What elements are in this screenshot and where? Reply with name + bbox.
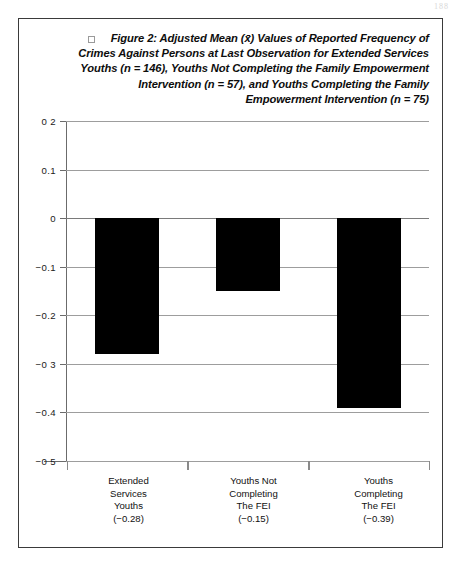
category-label-line: Extended xyxy=(66,475,191,488)
caption-line-1: Figure 2: Adjusted Mean (x̄) Values of R… xyxy=(111,32,429,44)
y-axis-tick-label: 0 xyxy=(50,213,56,224)
category-label-3: YouthsCompletingThe FEI(−0.39) xyxy=(316,475,441,525)
y-axis-tick xyxy=(60,267,66,268)
category-label-1: ExtendedServicesYouths(−0.28) xyxy=(66,475,191,525)
y-axis-tick xyxy=(60,315,66,316)
x-axis-tick xyxy=(188,461,189,470)
category-label-2: Youths NotCompletingThe FEI(−0.15) xyxy=(191,475,316,525)
y-axis-tick xyxy=(60,121,66,122)
category-label-line: Youths Not xyxy=(191,475,316,488)
y-axis-tick-label: −0 3 xyxy=(35,358,56,369)
category-label-line: Services xyxy=(66,488,191,501)
x-axis-tick xyxy=(309,461,310,470)
category-label-line: (−0.39) xyxy=(316,513,441,526)
figure-frame: Figure 2: Adjusted Mean (x̄) Values of R… xyxy=(18,18,443,548)
y-axis-tick-label: 0.1 xyxy=(41,164,56,175)
gridline xyxy=(66,170,429,171)
caption-line-3: Youths (n = 146), Youths Not Completing … xyxy=(29,61,429,76)
caption-line-2: Crimes Against Persons at Last Observati… xyxy=(29,46,429,61)
gridline xyxy=(66,412,429,413)
y-axis-tick xyxy=(60,364,66,365)
y-axis-tick-label: −0.1 xyxy=(35,261,56,272)
category-label-line: Completing xyxy=(191,488,316,501)
y-axis-tick-label: −0.2 xyxy=(35,310,56,321)
x-axis-category-labels: ExtendedServicesYouths(−0.28)Youths NotC… xyxy=(66,475,441,525)
bar xyxy=(337,218,401,407)
y-axis-tick-label: −0.4 xyxy=(35,407,56,418)
y-axis-tick-label: 0 2 xyxy=(41,116,56,127)
y-axis-tick xyxy=(60,412,66,413)
y-axis-line xyxy=(66,121,67,462)
page-number-artifact: 188 xyxy=(434,2,449,11)
category-label-line: Youths xyxy=(66,500,191,513)
category-label-line: (−0.28) xyxy=(66,513,191,526)
bar xyxy=(95,218,159,354)
bar-chart-plot-area: 0 20.10−0.1−0.2−0 3−0.4−0 5 xyxy=(66,121,429,461)
figure-caption: Figure 2: Adjusted Mean (x̄) Values of R… xyxy=(29,31,429,107)
empty-square-icon xyxy=(88,36,95,43)
y-axis-tick xyxy=(60,170,66,171)
category-label-line: The FEI xyxy=(191,500,316,513)
y-axis-tick xyxy=(60,461,66,462)
category-label-line: (−0.15) xyxy=(191,513,316,526)
caption-line-5: Empowerment Intervention (n = 75) xyxy=(29,92,429,107)
category-label-line: The FEI xyxy=(316,500,441,513)
gridline xyxy=(66,461,429,462)
y-axis-tick-label: −0 5 xyxy=(35,456,56,467)
caption-line-4: Intervention (n = 57), and Youths Comple… xyxy=(29,77,429,92)
gridline xyxy=(66,121,429,122)
x-axis-tick xyxy=(67,461,68,470)
category-label-line: Completing xyxy=(316,488,441,501)
x-axis-tick xyxy=(429,461,430,470)
y-axis-tick xyxy=(60,218,66,219)
bar xyxy=(216,218,280,291)
category-label-line: Youths xyxy=(316,475,441,488)
